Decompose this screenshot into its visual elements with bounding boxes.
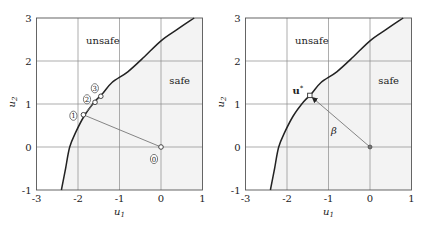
origin-point bbox=[368, 145, 372, 149]
x-tick-label: 0 bbox=[158, 193, 164, 204]
y-axis-label: u2 bbox=[6, 96, 19, 107]
subscript: 2 bbox=[11, 96, 19, 102]
design-point bbox=[308, 93, 312, 97]
x-tick-label: -3 bbox=[32, 193, 42, 204]
x-tick-label: 1 bbox=[199, 193, 205, 204]
subscript: 1 bbox=[120, 211, 124, 219]
design-point-label: u* bbox=[293, 84, 303, 96]
iteration-point bbox=[93, 100, 98, 105]
x-tick-label: -3 bbox=[241, 193, 251, 204]
y-tick-label: 0 bbox=[234, 142, 240, 153]
iteration-point bbox=[99, 94, 104, 99]
y-tick-label: 0 bbox=[25, 142, 31, 153]
region-label-safe: safe bbox=[378, 75, 399, 86]
left-plot: -3-2-101-10123u1u2unsafesafe0123 bbox=[6, 13, 206, 219]
x-tick-label: -1 bbox=[324, 193, 334, 204]
region-label-unsafe: unsafe bbox=[295, 35, 329, 46]
superscript: * bbox=[300, 84, 303, 91]
point-label: 2 bbox=[85, 96, 89, 104]
y-tick-label: 1 bbox=[234, 99, 240, 110]
region-label-safe: safe bbox=[169, 75, 190, 86]
y-tick-label: 3 bbox=[234, 13, 240, 24]
y-axis-label: u2 bbox=[215, 96, 228, 107]
y-tick-label: 2 bbox=[234, 56, 240, 67]
x-tick-label: -1 bbox=[115, 193, 125, 204]
point-label: 1 bbox=[71, 112, 75, 120]
x-axis-label: u1 bbox=[114, 206, 125, 219]
region-label-unsafe: unsafe bbox=[86, 35, 120, 46]
beta-label: β bbox=[330, 125, 337, 136]
subscript: 1 bbox=[329, 211, 333, 219]
iteration-point bbox=[159, 145, 164, 150]
iteration-point bbox=[81, 112, 86, 117]
x-tick-label: 1 bbox=[408, 193, 414, 204]
right-plot: -3-2-101-10123u1u2unsafesafeu*β bbox=[215, 13, 415, 219]
y-tick-label: -1 bbox=[22, 185, 32, 196]
figure: -3-2-101-10123u1u2unsafesafe0123 -3-2-10… bbox=[0, 0, 425, 227]
point-label: 0 bbox=[152, 156, 156, 164]
x-tick-label: 0 bbox=[367, 193, 373, 204]
y-tick-label: -1 bbox=[231, 185, 241, 196]
point-label: 3 bbox=[93, 85, 97, 93]
x-tick-label: -2 bbox=[73, 193, 83, 204]
subscript: 2 bbox=[220, 96, 228, 102]
x-axis-label: u1 bbox=[323, 206, 334, 219]
y-tick-label: 3 bbox=[25, 13, 31, 24]
y-tick-label: 1 bbox=[25, 99, 31, 110]
y-tick-label: 2 bbox=[25, 56, 31, 67]
x-tick-label: -2 bbox=[282, 193, 292, 204]
